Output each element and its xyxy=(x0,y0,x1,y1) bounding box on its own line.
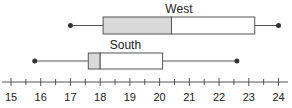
min-point xyxy=(32,59,37,64)
box-plot-south: South xyxy=(32,38,239,69)
tick-label: 20 xyxy=(153,91,165,103)
tick-label: 19 xyxy=(124,91,136,103)
box-plots: WestSouth xyxy=(32,2,281,69)
tick-label: 21 xyxy=(183,91,195,103)
box-plot-west: West xyxy=(68,2,281,34)
upper-box xyxy=(100,53,162,69)
upper-box xyxy=(172,17,255,34)
max-point xyxy=(234,59,239,64)
tick-label: 17 xyxy=(64,91,76,103)
tick-label: 24 xyxy=(272,91,284,103)
tick-label: 16 xyxy=(35,91,47,103)
series-label: South xyxy=(110,38,141,52)
min-point xyxy=(68,23,73,28)
max-point xyxy=(276,23,281,28)
series-label: West xyxy=(165,2,193,16)
tick-label: 23 xyxy=(243,91,255,103)
number-line-axis: 15161718192021222324 xyxy=(2,78,288,103)
lower-box xyxy=(88,53,100,69)
tick-label: 22 xyxy=(213,91,225,103)
tick-label: 15 xyxy=(5,91,17,103)
lower-box xyxy=(103,17,171,34)
tick-label: 18 xyxy=(94,91,106,103)
box-plot-chart: WestSouth 15161718192021222324 xyxy=(0,0,292,108)
